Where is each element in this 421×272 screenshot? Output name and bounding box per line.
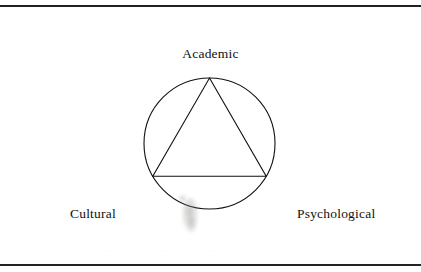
label-psychological: Psychological xyxy=(297,206,375,222)
scanned-page: ··· ·· ···· ·· ··· ···· ·· ··· ··· ·· ··… xyxy=(0,0,421,272)
triangle-in-circle-diagram xyxy=(0,0,421,272)
bottom-horizontal-rule xyxy=(0,264,421,266)
label-cultural: Cultural xyxy=(70,206,116,222)
inscribed-triangle xyxy=(153,78,266,176)
label-academic: Academic xyxy=(0,46,421,62)
outer-circle xyxy=(144,78,275,209)
